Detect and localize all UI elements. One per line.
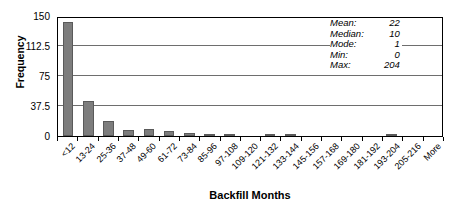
bar-cell xyxy=(98,18,118,136)
statistic-value: 204 xyxy=(374,60,402,71)
histogram-figure: Frequency 037.575112.5150 <1213-2425-363… xyxy=(0,0,459,210)
bar-cell xyxy=(220,18,240,136)
x-axis-tick-labels: <1213-2425-3637-4849-6061-7273-8485-9697… xyxy=(57,141,443,193)
x-axis-title: Backfill Months xyxy=(57,189,443,201)
bar xyxy=(63,22,74,136)
bar-cell xyxy=(240,18,260,136)
y-tick-label: 75 xyxy=(39,72,50,82)
bar-cell xyxy=(159,18,179,136)
statistic-label: Max: xyxy=(330,60,374,71)
y-tick-label: 112.5 xyxy=(26,42,50,52)
bar-cell xyxy=(119,18,139,136)
statistic-label: Mean: xyxy=(330,18,374,29)
y-axis-tick-labels: 037.575112.5150 xyxy=(0,0,54,210)
y-tick-label: 150 xyxy=(33,12,50,22)
bar-cell xyxy=(58,18,78,136)
y-tick-label: 0 xyxy=(44,132,50,142)
bar-cell xyxy=(199,18,219,136)
statistic-value: 22 xyxy=(374,18,402,29)
bar-cell xyxy=(139,18,159,136)
y-tick-label: 37.5 xyxy=(31,102,50,112)
bar-cell xyxy=(179,18,199,136)
statistics-table: Mean:22Median:10Mode:1Min:0Max:204 xyxy=(330,18,402,71)
statistics-row: Mean:22 xyxy=(330,18,402,29)
statistics-row: Max:204 xyxy=(330,60,402,71)
bar xyxy=(83,101,94,136)
bar-cell xyxy=(78,18,98,136)
statistics-annotation: Mean:22Median:10Mode:1Min:0Max:204 xyxy=(330,18,402,71)
